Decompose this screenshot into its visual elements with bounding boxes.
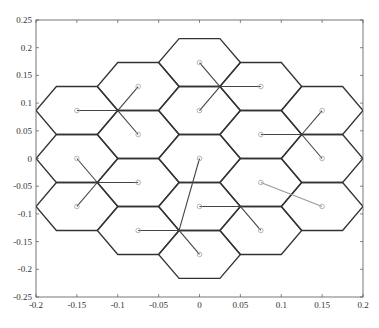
hex-cell	[281, 183, 363, 231]
y-tick-label: 0.2	[21, 43, 32, 53]
link-line	[261, 182, 322, 206]
y-tick-label: 0	[28, 154, 33, 164]
user-point-marker	[320, 108, 325, 113]
y-tick-label: 0.05	[16, 126, 32, 136]
link-line	[179, 159, 199, 231]
plot-area	[36, 39, 363, 279]
hex-cell	[220, 207, 302, 255]
link-line	[200, 63, 220, 87]
link-line	[302, 111, 322, 135]
link-line	[179, 230, 199, 254]
link-line	[240, 206, 260, 230]
y-tick-label: -0.05	[13, 181, 32, 191]
link-line	[118, 87, 138, 111]
link-line	[77, 159, 97, 183]
y-tick-label: 0.1	[21, 98, 32, 108]
hex-cell	[220, 159, 302, 207]
x-tick-label: 0.2	[357, 300, 368, 310]
link-line	[302, 135, 322, 159]
x-tick-label: -0.15	[68, 300, 87, 310]
link-line	[200, 87, 220, 111]
hex-cell	[97, 63, 179, 111]
y-tick-label: 0.15	[16, 70, 32, 80]
y-tick-label: -0.15	[13, 237, 32, 247]
y-tick-label: -0.25	[13, 292, 32, 302]
hex-cell	[281, 87, 363, 135]
y-tick-label: -0.2	[18, 264, 32, 274]
y-tick-label: 0.25	[16, 15, 32, 25]
x-tick-label: 0.05	[233, 300, 249, 310]
link-line	[118, 111, 138, 135]
x-tick-label: 0.1	[276, 300, 287, 310]
hex-cell	[281, 135, 363, 183]
x-tick-label: -0.05	[149, 300, 168, 310]
link-line	[77, 182, 97, 206]
hex-cell	[36, 183, 118, 231]
x-tick-label: -0.1	[111, 300, 125, 310]
hex-cell-plot: -0.2-0.15-0.1-0.0500.050.10.150.20.250.2…	[0, 0, 379, 328]
y-tick-label: -0.1	[18, 209, 32, 219]
x-tick-label: 0.15	[314, 300, 330, 310]
x-tick-label: 0	[197, 300, 202, 310]
